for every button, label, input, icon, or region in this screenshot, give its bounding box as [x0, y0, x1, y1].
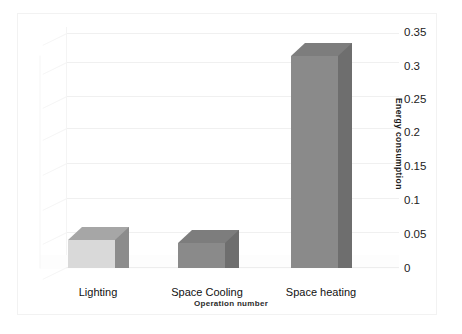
- x-category-label-lighting: Lighting: [48, 286, 148, 299]
- y-tick-label-0.15: 0.15: [404, 160, 446, 172]
- y-tick-label-0.30: 0.3: [404, 60, 446, 72]
- y-tick-label-0.25: 0.25: [404, 93, 446, 105]
- x-axis-title: Operation number: [0, 299, 462, 308]
- bar-lighting-side-face: [115, 227, 129, 268]
- chart-container: 0.35 0.3 0.25 0.2 0.15 0.1 0.05 0 Energy…: [0, 0, 462, 334]
- y-tick-label-0.35: 0.35: [404, 26, 446, 38]
- bar-space-cooling[interactable]: [178, 243, 225, 268]
- bar-lighting[interactable]: [68, 240, 115, 268]
- bar-space-heating-front-face: [291, 56, 338, 268]
- wall-depth-edge-left: [40, 56, 41, 269]
- bar-space-cooling-front-face: [178, 243, 225, 268]
- y-tick-label-0.20: 0.2: [404, 126, 446, 138]
- x-category-label-space-cooling: Space Cooling: [152, 286, 262, 299]
- bar-lighting-front-face: [68, 240, 115, 268]
- bar-space-heating-side-face: [338, 43, 352, 268]
- bar-space-heating[interactable]: [291, 56, 338, 268]
- bar-space-cooling-side-face: [225, 230, 239, 268]
- y-tick-label-0.00: 0: [404, 262, 446, 274]
- gridline-0.35: [66, 33, 399, 34]
- x-category-label-space-heating: Space heating: [266, 286, 376, 299]
- y-tick-label-0.05: 0.05: [404, 228, 446, 240]
- y-tick-label-0.10: 0.1: [404, 194, 446, 206]
- y-axis-title: Energy consumption: [394, 98, 404, 208]
